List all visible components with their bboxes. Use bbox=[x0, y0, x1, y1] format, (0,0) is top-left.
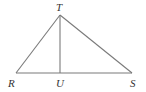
label-U: U bbox=[56, 77, 65, 89]
label-T: T bbox=[56, 1, 63, 13]
triangle-diagram: T R U S bbox=[0, 0, 146, 92]
segment-TS bbox=[60, 15, 132, 73]
label-R: R bbox=[7, 77, 15, 89]
segment-TR bbox=[16, 15, 60, 73]
label-S: S bbox=[130, 77, 136, 89]
